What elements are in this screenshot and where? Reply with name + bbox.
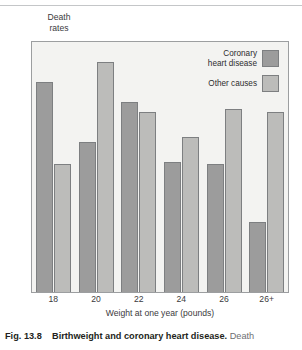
bar-chd-24 xyxy=(164,162,181,292)
x-tick-label-26+: 26+ xyxy=(259,294,274,304)
figure-birthweight-coronary-heart-disease: Death rates Coronary heart disease Other… xyxy=(0,0,302,350)
legend-item-coronary-heart-disease: Coronary heart disease xyxy=(208,49,279,68)
x-tick-label-20: 20 xyxy=(91,294,101,304)
legend-swatch-coronary-heart-disease xyxy=(262,50,279,67)
legend-swatch-other-causes xyxy=(262,75,279,92)
caption-title: Birthweight and coronary heart disease. xyxy=(52,331,227,341)
x-tick-label-22: 22 xyxy=(134,294,144,304)
chart-legend: Coronary heart disease Other causes xyxy=(208,49,279,99)
bar-chd-26+ xyxy=(249,222,266,292)
legend-label-other-causes: Other causes xyxy=(208,79,257,89)
bar-chd-22 xyxy=(121,102,138,292)
bar-other-26+ xyxy=(267,112,284,292)
bar-other-20 xyxy=(97,62,114,292)
bar-other-26 xyxy=(225,109,242,292)
figure-caption: Fig. 13.8 Birthweight and coronary heart… xyxy=(5,330,299,342)
x-axis-label: Weight at one year (pounds) xyxy=(31,308,289,318)
legend-label-coronary-heart-disease: Coronary heart disease xyxy=(208,49,257,68)
x-tick-label-18: 18 xyxy=(49,294,59,304)
bar-chd-26 xyxy=(207,164,224,292)
caption-figure-number: Fig. 13.8 xyxy=(5,331,42,341)
caption-body-text: Death xyxy=(227,331,254,341)
bar-other-22 xyxy=(139,112,156,292)
x-axis-tick-labels: 182022242626+ xyxy=(31,294,289,308)
bar-other-24 xyxy=(182,137,199,292)
x-tick-label-26: 26 xyxy=(219,294,229,304)
x-tick-label-24: 24 xyxy=(177,294,187,304)
legend-item-other-causes: Other causes xyxy=(208,75,279,92)
top-divider-rule xyxy=(0,5,302,6)
bar-chd-18 xyxy=(36,82,53,292)
bar-other-18 xyxy=(54,164,71,292)
bar-chd-20 xyxy=(79,142,96,292)
y-axis-label: Death rates xyxy=(29,12,89,33)
plot-area: Coronary heart disease Other causes xyxy=(31,41,289,293)
